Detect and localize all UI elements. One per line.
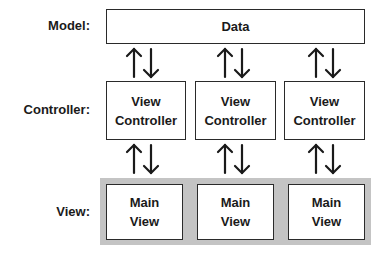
main-view-box-2: Main View — [197, 184, 274, 240]
view-label-line2: View — [221, 212, 250, 231]
controller-label-line2: Controller — [293, 111, 355, 130]
bidirectional-arrows-icon — [124, 142, 164, 176]
view-row-label: View: — [10, 204, 90, 219]
main-view-box-3: Main View — [288, 184, 365, 240]
main-view-box-1: Main View — [106, 184, 183, 240]
view-label-line1: Main — [312, 193, 342, 212]
controller-row-label: Controller: — [0, 102, 90, 117]
view-label-line2: View — [312, 212, 341, 231]
view-label-line1: Main — [130, 193, 160, 212]
controller-label-line1: View — [131, 92, 160, 111]
view-controller-box-1: View Controller — [106, 81, 186, 140]
bidirectional-arrows-icon — [124, 46, 164, 80]
view-label-line2: View — [130, 212, 159, 231]
bidirectional-arrows-icon — [306, 46, 346, 80]
model-row-label: Model: — [10, 18, 90, 33]
controller-label-line2: Controller — [204, 111, 266, 130]
controller-label-line1: View — [310, 92, 339, 111]
data-model-label: Data — [221, 17, 249, 36]
view-label-line1: Main — [221, 193, 251, 212]
view-controller-box-3: View Controller — [284, 81, 365, 140]
controller-label-line1: View — [221, 92, 250, 111]
data-model-box: Data — [106, 9, 365, 44]
controller-label-line2: Controller — [115, 111, 177, 130]
bidirectional-arrows-icon — [306, 142, 346, 176]
bidirectional-arrows-icon — [215, 46, 255, 80]
view-controller-box-2: View Controller — [195, 81, 276, 140]
bidirectional-arrows-icon — [215, 142, 255, 176]
